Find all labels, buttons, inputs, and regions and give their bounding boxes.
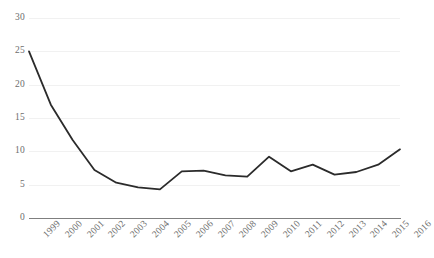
y-axis-tick-label: 30: [1, 13, 25, 23]
x-axis-tick-label: 2003: [129, 219, 150, 240]
x-axis-tick-label: 2005: [173, 219, 194, 240]
y-axis-tick-label: 10: [1, 146, 25, 156]
y-axis-tick-labels: 051015202530: [0, 18, 25, 218]
x-axis-tick-label: 2011: [304, 219, 324, 239]
x-axis-tick-label: 2014: [369, 219, 390, 240]
x-axis-tick-label: 1999: [42, 219, 63, 240]
y-axis-tick-label: 15: [1, 113, 25, 123]
series-1-line: [29, 51, 400, 189]
y-axis-tick-label: 0: [1, 213, 25, 223]
x-axis-tick-label: 2002: [107, 219, 128, 240]
plot-area: [29, 18, 400, 218]
y-axis-tick-label: 5: [1, 180, 25, 190]
x-axis-tick-label: 2004: [151, 219, 172, 240]
x-axis-tick-label: 2015: [391, 219, 412, 240]
x-axis-tick-label: 2013: [347, 219, 368, 240]
y-axis-tick-label: 20: [1, 80, 25, 90]
x-axis-tick-label: 2006: [195, 219, 216, 240]
y-axis-tick-label: 25: [1, 46, 25, 56]
x-axis-tick-label: 2012: [326, 219, 347, 240]
x-axis-tick-label: 2007: [216, 219, 237, 240]
x-axis-tick-label: 2016: [413, 219, 434, 240]
x-axis-tick-labels: 1999200020012002200320042005200620072008…: [29, 219, 411, 258]
x-axis-tick-label: 2000: [64, 219, 85, 240]
series-line-group: [29, 18, 400, 218]
x-axis-tick-label: 2001: [85, 219, 106, 240]
x-axis-tick-label: 2010: [282, 219, 303, 240]
x-axis-tick-label: 2009: [260, 219, 281, 240]
x-axis-tick-label: 2008: [238, 219, 259, 240]
